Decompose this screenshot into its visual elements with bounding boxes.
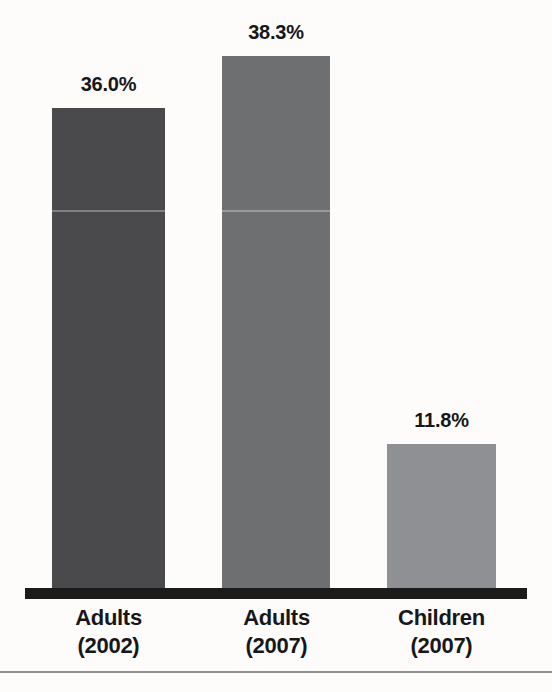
bar-value-label-adults-2002: 36.0% <box>81 74 137 94</box>
category-label-name: Adults <box>43 604 174 632</box>
bar-chart: 36.0% 38.3% 11.8% Adults (2002) Adults (… <box>0 0 552 692</box>
axis-baseline <box>25 588 527 599</box>
bar-rect-adults-2002[interactable] <box>52 108 165 588</box>
bar-value-label-children-2007: 11.8% <box>414 410 469 430</box>
bar-rect-adults-2007[interactable] <box>222 56 330 588</box>
category-label-adults-2007: Adults (2007) <box>211 604 342 660</box>
page-divider-rule <box>0 671 552 673</box>
plot-area: 36.0% 38.3% 11.8% <box>0 0 552 598</box>
category-label-name: Adults <box>211 604 342 632</box>
bar-value-label-adults-2007: 38.3% <box>248 22 304 42</box>
bar-group-adults-2007[interactable]: 38.3% <box>222 46 330 588</box>
category-label-year: (2007) <box>376 632 507 660</box>
category-label-name: Children <box>376 604 507 632</box>
bar-rect-children-2007[interactable] <box>387 444 496 588</box>
category-axis-labels: Adults (2002) Adults (2007) Children (20… <box>0 604 552 666</box>
category-label-children-2007: Children (2007) <box>376 604 507 660</box>
bar-group-children-2007[interactable]: 11.8% <box>387 434 496 588</box>
category-label-adults-2002: Adults (2002) <box>43 604 174 660</box>
bar-group-adults-2002[interactable]: 36.0% <box>52 98 165 588</box>
category-label-year: (2002) <box>43 632 174 660</box>
category-label-year: (2007) <box>211 632 342 660</box>
